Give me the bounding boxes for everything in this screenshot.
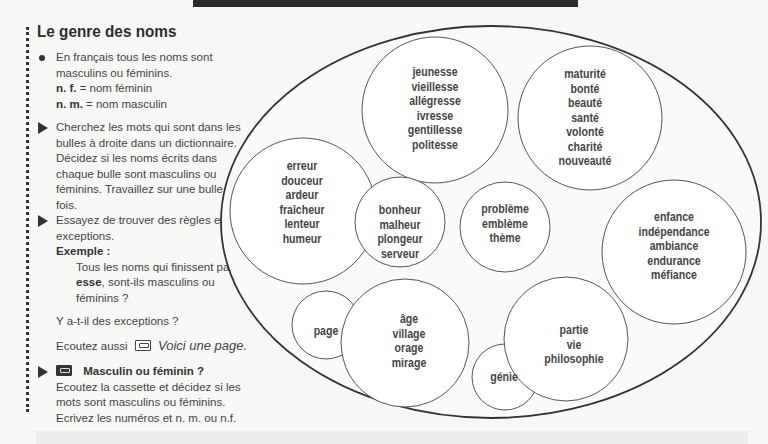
- word: page: [314, 324, 339, 339]
- word: volonté: [559, 125, 612, 140]
- word: village: [392, 327, 427, 342]
- word: bonté: [559, 82, 612, 97]
- word: orage: [392, 341, 427, 356]
- bubble-esse-words: jeunesse vieillesse allégresse ivresse g…: [408, 65, 463, 152]
- word: malheur: [377, 218, 422, 233]
- word: santé: [559, 111, 612, 126]
- word: problème: [481, 202, 529, 217]
- word: ambiance: [638, 239, 709, 254]
- word: politesse: [408, 137, 463, 152]
- word: charité: [559, 140, 612, 155]
- bubble-eme-words: problème emblème thème: [481, 202, 529, 246]
- word: mirage: [392, 356, 427, 371]
- bubble-page-words: page: [314, 324, 339, 339]
- bubble-eur-m-words: bonheur malheur plongeur serveur: [377, 203, 422, 261]
- bubble-genie-words: génie: [490, 370, 518, 385]
- word: endurance: [638, 253, 709, 268]
- word: beauté: [559, 96, 612, 111]
- word: partie: [544, 323, 603, 338]
- word: philosophie: [544, 352, 603, 367]
- word: jeunesse: [408, 65, 463, 80]
- word: douceur: [279, 173, 324, 188]
- word: plongeur: [377, 232, 422, 247]
- word: génie: [490, 370, 518, 385]
- word: serveur: [377, 247, 422, 262]
- bubble-eur-f-words: erreur douceur ardeur fraîcheur lenteur …: [279, 159, 324, 246]
- word: thème: [481, 231, 529, 246]
- bubble-ance-words: enfance indépendance ambiance endurance …: [638, 210, 709, 283]
- word: gentillesse: [408, 123, 463, 138]
- bubble-te-words: maturité bonté beauté santé volonté char…: [559, 67, 612, 169]
- word: enfance: [638, 210, 709, 225]
- word: erreur: [279, 159, 324, 174]
- word: méfiance: [638, 268, 709, 283]
- bottom-divider-strip: [36, 431, 748, 444]
- word: maturité: [559, 67, 612, 82]
- word: vie: [544, 338, 603, 353]
- word: vieillesse: [408, 79, 463, 94]
- word: nouveauté: [559, 154, 612, 169]
- word: lenteur: [279, 217, 324, 232]
- bubble-ie-words: partie vie philosophie: [544, 323, 603, 367]
- word: indépendance: [638, 224, 709, 239]
- word: âge: [392, 312, 427, 327]
- word: allégresse: [408, 94, 463, 109]
- word: ardeur: [279, 188, 324, 203]
- bubble-age-words: âge village orage mirage: [392, 312, 427, 370]
- word: humeur: [279, 231, 324, 246]
- word: bonheur: [377, 203, 422, 218]
- word: fraîcheur: [279, 202, 324, 217]
- word: emblème: [481, 217, 529, 232]
- word: ivresse: [408, 108, 463, 123]
